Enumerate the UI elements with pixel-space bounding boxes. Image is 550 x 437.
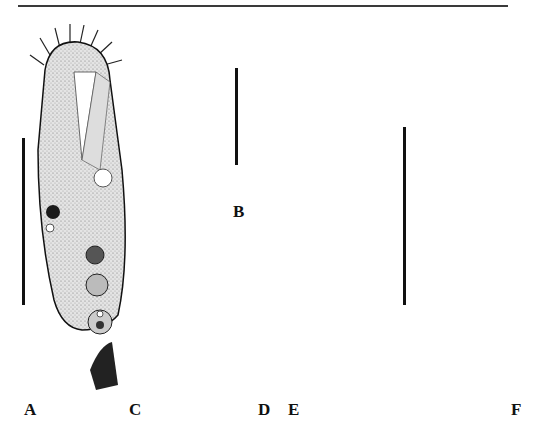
- panel-label-a: A: [24, 401, 36, 418]
- panel-label-d: D: [258, 401, 270, 418]
- panel-label-b: B: [233, 203, 244, 220]
- scale-bar-ef: [403, 127, 406, 305]
- panel-label-c: C: [129, 401, 141, 418]
- panel-label-f: F: [511, 401, 521, 418]
- figure-drawings: [0, 0, 550, 437]
- panel-a-cell: [30, 24, 125, 390]
- panel-label-e: E: [288, 401, 299, 418]
- scale-bar-b: [235, 68, 238, 165]
- scale-bar-a: [22, 138, 25, 305]
